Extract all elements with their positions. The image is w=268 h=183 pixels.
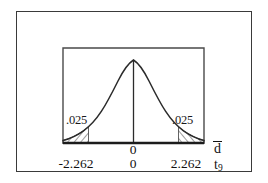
t-distribution-figure: .025 .025 0 -2.262 0 2.262 d t9 bbox=[0, 0, 268, 183]
plot-area bbox=[62, 47, 205, 145]
t-axis-tick-zero: 0 bbox=[110, 156, 156, 172]
t-axis-label-subscript: 9 bbox=[218, 163, 223, 173]
d-bar-axis-label-text: d bbox=[214, 140, 221, 157]
d-bar-axis-label: d bbox=[214, 140, 221, 157]
right-tail-area-label: .025 bbox=[172, 113, 193, 128]
t-axis-label: t9 bbox=[214, 157, 223, 173]
t-axis-tick-negative-critical: -2.262 bbox=[45, 156, 107, 172]
distribution-curve-svg bbox=[62, 47, 205, 145]
t-axis-tick-positive-critical: 2.262 bbox=[158, 156, 214, 172]
left-tail-area-label: .025 bbox=[66, 113, 87, 128]
